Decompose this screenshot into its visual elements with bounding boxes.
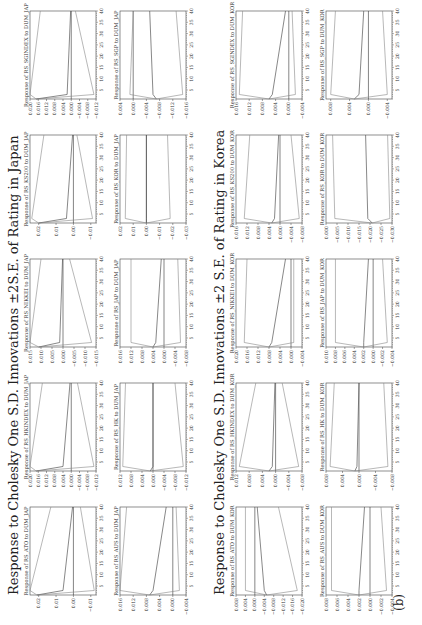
x-tick-label: 35 [99, 267, 104, 273]
x-tick-label: 5 [99, 88, 104, 91]
y-tick-label: 0.00 [71, 226, 76, 236]
irf-chart: Response of RS_SGINDEX to DUM_JAP0.0200.… [22, 3, 120, 125]
panel-title: Response of RS_HK to DUM_KOR [319, 382, 326, 472]
irf-panel-japan-1: Response of RS_ATO to DUM_JAP0.020.010.0… [22, 499, 124, 621]
y-tick-label: −0.004 [385, 102, 390, 119]
irf-panel-korea-10: Response of RS_SGP to DUM_KOR0.0080.0040… [318, 3, 420, 125]
plot-frame [120, 259, 186, 347]
y-tick-label: 0.005 [50, 350, 55, 363]
panel-title: Response of RS_ATO to DUM_KOR [229, 504, 236, 597]
y-tick-label: −0.012 [94, 102, 99, 119]
x-tick-label: 15 [99, 64, 104, 70]
irf-panel-korea-5: Response of RS_SGINDEX to DUM_KOR0.0160.… [228, 3, 330, 125]
plot-frame [30, 11, 96, 99]
x-tick-label: 20 [99, 301, 104, 307]
x-tick-label: 25 [189, 538, 194, 544]
plot-frame [236, 259, 302, 347]
y-tick-label: −0.004 [300, 350, 305, 367]
irf-panel-korea-9: Response of RS_KOR to DUM_KOR0.000−0.005… [318, 127, 420, 249]
y-tick-label: −0.008 [300, 226, 305, 243]
y-tick-label: 0.02 [118, 226, 123, 236]
x-tick-label: 20 [395, 177, 400, 183]
x-tick-label: 35 [189, 19, 194, 25]
x-tick-label: 5 [305, 88, 310, 91]
x-tick-label: 10 [395, 324, 400, 330]
y-tick-label: −0.01 [88, 598, 93, 612]
x-tick-label: 10 [305, 76, 310, 82]
plot-frame [30, 135, 96, 223]
x-tick-label: 25 [99, 290, 104, 296]
y-tick-label: 0.000 [162, 350, 167, 363]
x-tick-label: 20 [189, 177, 194, 183]
x-tick-label: 10 [395, 572, 400, 578]
y-tick-label: 0.000 [273, 474, 278, 487]
x-tick-label: 35 [189, 391, 194, 397]
x-tick-label: 20 [99, 177, 104, 183]
y-tick-label: 0.012 [247, 102, 252, 115]
plot-frame [326, 135, 392, 223]
y-tick-label: 0.008 [52, 102, 57, 115]
y-tick-label: 0.004 [61, 474, 66, 487]
irf-panel-korea-8: Response of RS_JAP to DUM_KOR0.0100.0080… [318, 251, 420, 373]
panel-title: Response of RS_SGINDEX to DUM_JAP [23, 3, 30, 107]
x-tick-label: 5 [99, 584, 104, 587]
y-tick-label: −0.008 [300, 474, 305, 491]
x-tick-label: 35 [395, 143, 400, 149]
y-tick-label: 0.004 [340, 474, 345, 487]
y-tick-label: 0.008 [328, 102, 333, 115]
y-tick-label: −0.02 [170, 226, 175, 240]
x-tick-label: 30 [189, 279, 194, 285]
y-tick-label: −0.004 [173, 350, 178, 367]
y-tick-label: 0.004 [352, 350, 357, 363]
x-tick-label: 20 [305, 177, 310, 183]
y-tick-label: 0.006 [342, 350, 347, 363]
y-tick-label: 0.00 [71, 598, 76, 608]
x-tick-label: 10 [305, 448, 310, 454]
x-tick-label: 5 [305, 460, 310, 463]
panel-title: Response of RS_SGP to DUM_JAP [113, 10, 120, 100]
y-tick-label: −0.020 [368, 226, 373, 243]
y-tick-label: 0.010 [39, 350, 44, 363]
x-tick-label: 5 [395, 336, 400, 339]
y-tick-label: 0.016 [118, 598, 123, 611]
x-tick-label: 30 [305, 527, 310, 533]
x-tick-label: 25 [189, 290, 194, 296]
x-tick-label: 30 [189, 31, 194, 37]
x-tick-label: 10 [395, 200, 400, 206]
x-tick-label: 35 [305, 19, 310, 25]
y-tick-label: −0.012 [184, 474, 189, 491]
x-tick-label: 40 [99, 132, 104, 138]
x-tick-label: 5 [395, 88, 400, 91]
y-tick-label: −0.004 [300, 102, 305, 119]
x-tick-label: 35 [305, 391, 310, 397]
x-tick-label: 30 [99, 155, 104, 161]
irf-panel-japan-2: Response of RS_HKINDEX to DUM_JAP0.0200.… [22, 375, 124, 497]
y-tick-label: 0.004 [273, 102, 278, 115]
irf-panel-korea-7: Response of RS_HK to DUM_KOR0.0080.0040.… [318, 375, 420, 497]
plot-frame [120, 135, 186, 223]
y-tick-label: 0.02 [36, 598, 41, 608]
y-tick-label: −0.005 [72, 350, 77, 367]
x-tick-label: 30 [305, 31, 310, 37]
irf-panel-japan-8: Response of RS_JAP to DUM_JAP0.0160.0120… [112, 251, 214, 373]
y-tick-label: 0.02 [36, 226, 41, 236]
y-tick-label: 0.000 [252, 598, 257, 611]
y-tick-label: 0.008 [333, 350, 338, 363]
y-tick-label: 0.000 [170, 598, 175, 611]
irf-panel-japan-6: Response of RS_AUS to DUM_JAP0.0160.0120… [112, 499, 214, 621]
x-tick-label: 30 [99, 403, 104, 409]
irf-chart: Response of RS_SGINDEX to DUM_KOR0.0160.… [228, 3, 326, 125]
panel-title: Response of RS_KOR to DUM_JAP [113, 134, 120, 224]
y-tick-label: 0.008 [256, 226, 261, 239]
y-tick-label: −0.004 [373, 474, 378, 491]
x-tick-label: 30 [305, 403, 310, 409]
x-tick-label: 20 [305, 425, 310, 431]
x-tick-label: 35 [189, 267, 194, 273]
y-tick-label: 0.000 [69, 474, 74, 487]
x-tick-label: 20 [395, 53, 400, 59]
y-tick-label: −0.012 [94, 474, 99, 491]
x-tick-label: 20 [99, 549, 104, 555]
panel-title: Response of RS_ATO to DUM_JAP [23, 506, 30, 595]
y-tick-label: −0.008 [85, 474, 90, 491]
x-tick-label: 25 [395, 290, 400, 296]
